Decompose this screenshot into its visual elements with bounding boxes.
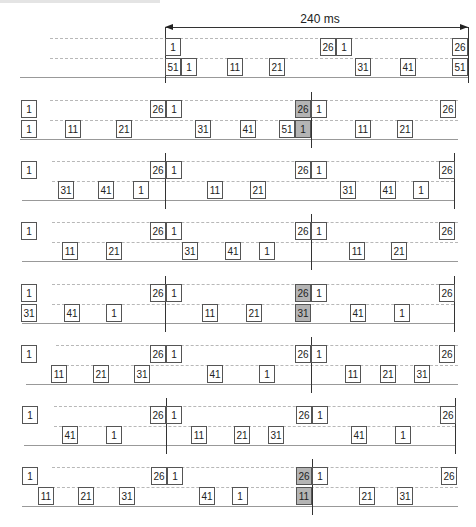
lower-slot-box: 21: [397, 120, 413, 138]
lower-slot-box: 21: [246, 304, 262, 322]
timeline-row-1: 1261265111121314151: [0, 36, 476, 98]
lower-slot-box: 21: [250, 181, 266, 199]
lower-slot-box: 31: [397, 487, 413, 505]
upper-slot-box: 1: [22, 467, 38, 485]
lower-slot-box: 1: [395, 426, 411, 444]
lower-slot-box: 21: [106, 242, 122, 260]
upper-slot-box: 26: [295, 161, 311, 179]
timeline-row-8: 126126126112131411112131: [0, 465, 476, 527]
timeline-row-7: 126126126411112131411: [0, 404, 476, 466]
lower-slot-box: 31: [195, 120, 211, 138]
highlighted-lower-slot-box: 11: [296, 487, 312, 505]
lower-slot-box: 51: [452, 58, 468, 76]
lower-slot-box: 31: [355, 58, 371, 76]
lower-slot-box: 41: [199, 487, 215, 505]
upper-slot-box: 1: [311, 100, 327, 118]
upper-slot-box: 1: [166, 284, 182, 302]
lower-slot-box: 21: [93, 365, 109, 383]
upper-slot-box: 1: [21, 161, 37, 179]
upper-slot-box: 1: [166, 345, 182, 363]
lower-slot-box: 51: [165, 58, 181, 76]
upper-dashed-guide: [56, 345, 458, 346]
upper-slot-box: 26: [150, 406, 166, 424]
lower-slot-box: 41: [98, 181, 114, 199]
period-arrow: [165, 27, 468, 28]
upper-slot-box: 1: [166, 161, 182, 179]
upper-dashed-guide: [52, 161, 454, 162]
lower-slot-box: 41: [350, 304, 366, 322]
upper-slot-box: 1: [21, 345, 37, 363]
upper-slot-box: 26: [150, 100, 166, 118]
upper-slot-box: 1: [165, 38, 181, 56]
lower-slot-box: 31: [119, 487, 135, 505]
lower-slot-box: 31: [134, 365, 150, 383]
row-baseline: [22, 200, 454, 201]
upper-slot-box: 1: [166, 222, 182, 240]
lower-slot-box: 21: [269, 58, 285, 76]
lower-slot-box: 41: [62, 426, 78, 444]
row-baseline: [22, 323, 454, 324]
timeline-row-6: 126126126112131411112131: [0, 343, 476, 405]
lower-slot-box: 1: [259, 242, 275, 260]
lower-dashed-guide: [56, 365, 458, 366]
upper-slot-box: 1: [311, 161, 327, 179]
upper-slot-box: 26: [440, 100, 456, 118]
upper-slot-box: 26: [452, 38, 468, 56]
lower-slot-box: 21: [391, 242, 407, 260]
upper-dashed-guide: [50, 100, 458, 101]
lower-slot-box: 21: [78, 487, 94, 505]
upper-slot-box: 26: [295, 345, 311, 363]
upper-slot-box: 26: [441, 467, 457, 485]
upper-slot-box: 26: [439, 284, 455, 302]
row-baseline: [24, 445, 455, 446]
upper-slot-box: 26: [150, 284, 166, 302]
upper-slot-box: 26: [440, 406, 456, 424]
upper-slot-box: 1: [21, 222, 37, 240]
lower-slot-box: 31: [21, 304, 37, 322]
upper-slot-box: 1: [21, 284, 37, 302]
row-baseline: [20, 139, 458, 140]
row-baseline: [20, 77, 468, 78]
upper-slot-box: 1: [312, 406, 328, 424]
lower-slot-box: 31: [340, 181, 356, 199]
upper-slot-box: 1: [166, 100, 182, 118]
upper-slot-box: 1: [22, 406, 38, 424]
lower-slot-box: 31: [182, 242, 198, 260]
timeline-row-2: 1261261261112131415111121: [0, 98, 476, 160]
upper-slot-box: 26: [150, 345, 166, 363]
upper-dashed-guide: [52, 222, 458, 223]
lower-slot-box: 11: [62, 242, 78, 260]
highlighted-upper-slot-box: 26: [296, 467, 312, 485]
lower-slot-box: 41: [207, 365, 223, 383]
lower-slot-box: 11: [227, 58, 243, 76]
timeline-row-3: 12612612631411112131411: [0, 159, 476, 221]
lower-slot-box: 11: [38, 487, 54, 505]
upper-slot-box: 26: [439, 161, 455, 179]
lower-slot-box: 21: [359, 487, 375, 505]
timeline-row-4: 1261261261121314111121: [0, 220, 476, 282]
cropped-caption-band: [0, 0, 160, 3]
upper-slot-box: 26: [320, 38, 336, 56]
upper-slot-box: 1: [336, 38, 352, 56]
lower-slot-box: 21: [380, 365, 396, 383]
lower-slot-box: 11: [51, 365, 67, 383]
lower-slot-box: 1: [181, 58, 197, 76]
upper-slot-box: 26: [439, 345, 455, 363]
lower-slot-box: 11: [191, 426, 207, 444]
lower-slot-box: 41: [351, 426, 367, 444]
lower-slot-box: 1: [21, 120, 37, 138]
lower-slot-box: 31: [268, 426, 284, 444]
lower-slot-box: 41: [225, 242, 241, 260]
period-label: 240 ms: [290, 12, 350, 26]
upper-slot-box: 1: [312, 467, 328, 485]
highlighted-lower-slot-box: 31: [295, 304, 311, 322]
upper-dashed-guide: [50, 38, 468, 39]
highlighted-upper-slot-box: 26: [295, 100, 311, 118]
lower-slot-box: 11: [349, 242, 365, 260]
lower-slot-box: 1: [232, 487, 248, 505]
upper-slot-box: 1: [166, 406, 182, 424]
lower-slot-box: 11: [65, 120, 81, 138]
upper-dashed-guide: [52, 284, 454, 285]
lower-slot-box: 11: [355, 120, 371, 138]
lower-slot-box: 11: [345, 365, 361, 383]
